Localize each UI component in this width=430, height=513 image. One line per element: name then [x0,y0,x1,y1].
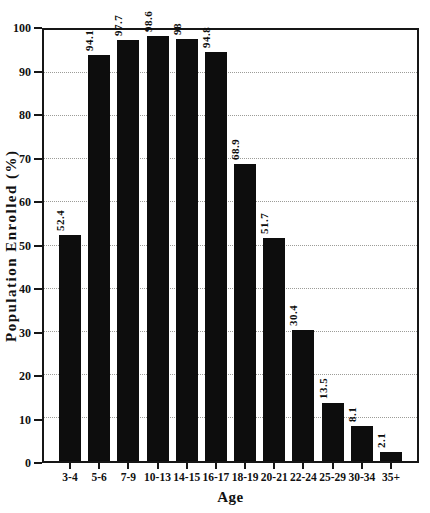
y-tick-label: 20 [0,369,31,383]
y-tick-mark [34,375,42,377]
bar-value-label: 98 [172,23,182,35]
x-tick-mark [390,463,392,469]
bar-value-label: 97.7 [113,15,123,36]
bar-value-label: 94.8 [201,27,211,48]
y-tick-label: 30 [0,326,31,340]
y-tick-mark [34,114,42,116]
bar-value-label: 30.4 [288,305,298,326]
y-tick-mark [34,201,42,203]
y-tick-label: 100 [0,21,31,35]
bar [59,235,81,461]
y-tick-label: 40 [0,282,31,296]
x-tick-mark [273,463,275,469]
bar [88,55,110,461]
bar [322,403,344,461]
y-tick-mark [34,419,42,421]
bar [234,164,256,461]
x-tick-mark [361,463,363,469]
bar [205,52,227,461]
y-tick-label: 60 [0,195,31,209]
y-tick-label: 90 [0,65,31,79]
bar [292,330,314,461]
y-tick-label: 50 [0,239,31,253]
x-tick-label: 35+ [369,471,413,483]
x-tick-mark [69,463,71,469]
y-tick-mark [34,332,42,334]
x-tick-mark [302,463,304,469]
y-tick-mark [34,462,42,464]
bar-value-label: 94.1 [84,30,94,51]
bar [147,36,169,461]
bar-value-label: 13.5 [318,378,328,399]
y-tick-label: 10 [0,413,31,427]
x-tick-mark [157,463,159,469]
bar [263,238,285,461]
y-tick-label: 70 [0,152,31,166]
bar [176,39,198,461]
x-tick-mark [127,463,129,469]
plot-area: 52.494.197.798.69894.868.951.730.413.58.… [42,28,419,463]
bar [351,426,373,461]
x-tick-mark [186,463,188,469]
y-tick-mark [34,71,42,73]
bar-value-label: 68.9 [230,139,240,160]
y-tick-mark [34,288,42,290]
y-tick-label: 80 [0,108,31,122]
bar-value-label: 51.7 [259,213,269,234]
bar-value-label: 8.1 [347,407,357,422]
bar-value-label: 2.1 [376,433,386,448]
y-tick-mark [34,158,42,160]
y-tick-mark [34,27,42,29]
y-tick-mark [34,245,42,247]
x-tick-mark [215,463,217,469]
bar-chart-figure: Population Enrolled (%) 52.494.197.798.6… [0,0,430,513]
bar [380,452,402,461]
x-tick-mark [98,463,100,469]
bar-value-label: 98.6 [143,11,153,32]
y-tick-label: 0 [0,456,31,470]
x-tick-mark [332,463,334,469]
x-axis-title: Age [42,489,419,506]
plot-inner: 52.494.197.798.69894.868.951.730.413.58.… [44,30,417,461]
bar-value-label: 52.4 [55,210,65,231]
x-tick-mark [244,463,246,469]
bar [117,40,139,461]
